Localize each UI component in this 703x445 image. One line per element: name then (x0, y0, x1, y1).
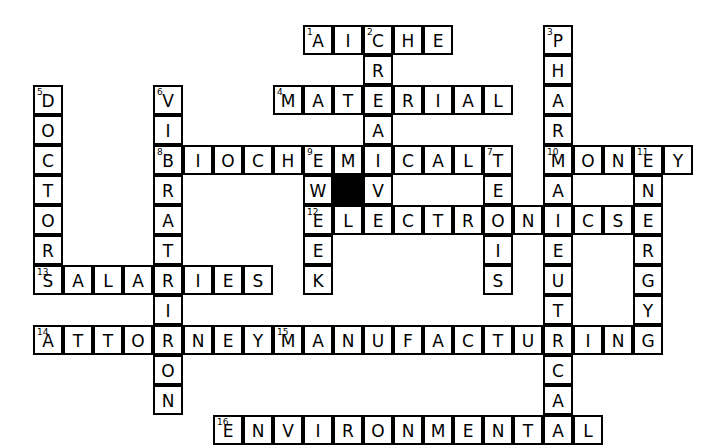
crossword-cell[interactable]: 2C (363, 25, 393, 55)
crossword-cell[interactable]: U (543, 265, 573, 295)
crossword-cell[interactable]: L (93, 265, 123, 295)
crossword-cell[interactable]: E (363, 205, 393, 235)
crossword-cell[interactable]: A (453, 85, 483, 115)
crossword-cell[interactable]: I (183, 145, 213, 175)
crossword-cell[interactable]: T (543, 295, 573, 325)
crossword-cell[interactable]: I (363, 145, 393, 175)
crossword-cell[interactable]: C (543, 355, 573, 385)
crossword-cell[interactable]: T (333, 85, 363, 115)
crossword-cell[interactable]: A (123, 265, 153, 295)
crossword-cell[interactable]: I (153, 115, 183, 145)
crossword-cell[interactable]: E (483, 175, 513, 205)
crossword-cell[interactable]: O (153, 355, 183, 385)
crossword-cell[interactable]: T (63, 325, 93, 355)
crossword-cell[interactable]: T (153, 235, 183, 265)
crossword-cell[interactable]: N (633, 175, 663, 205)
crossword-cell[interactable]: S (243, 265, 273, 295)
crossword-cell[interactable]: N (183, 325, 213, 355)
crossword-cell[interactable]: T (423, 205, 453, 235)
crossword-cell[interactable]: A (543, 175, 573, 205)
crossword-cell[interactable]: L (453, 145, 483, 175)
crossword-cell[interactable]: S (483, 265, 513, 295)
crossword-cell[interactable]: T (513, 415, 543, 445)
crossword-cell[interactable]: O (213, 145, 243, 175)
crossword-cell[interactable]: I (303, 415, 333, 445)
crossword-cell[interactable]: N (513, 205, 543, 235)
crossword-cell[interactable]: H (543, 55, 573, 85)
crossword-cell[interactable]: R (333, 415, 363, 445)
crossword-cell[interactable]: K (303, 265, 333, 295)
crossword-cell[interactable]: C (243, 145, 273, 175)
crossword-cell[interactable]: 12E (303, 205, 333, 235)
crossword-cell[interactable]: U (363, 325, 393, 355)
crossword-cell[interactable]: V (363, 175, 393, 205)
crossword-cell[interactable]: S (603, 205, 633, 235)
crossword-cell[interactable]: C (393, 145, 423, 175)
crossword-cell[interactable]: R (153, 265, 183, 295)
crossword-cell[interactable]: C (453, 325, 483, 355)
crossword-cell[interactable]: I (543, 205, 573, 235)
crossword-cell[interactable]: 5D (33, 85, 63, 115)
crossword-cell[interactable]: W (303, 175, 333, 205)
crossword-cell[interactable]: 4M (273, 85, 303, 115)
crossword-cell[interactable]: 16E (213, 415, 243, 445)
crossword-cell[interactable]: A (303, 325, 333, 355)
crossword-cell[interactable]: R (153, 325, 183, 355)
crossword-cell[interactable]: 10M (543, 145, 573, 175)
crossword-cell[interactable]: 7T (483, 145, 513, 175)
crossword-cell[interactable]: A (543, 385, 573, 415)
crossword-cell[interactable]: E (633, 205, 663, 235)
crossword-cell[interactable]: A (63, 265, 93, 295)
crossword-cell[interactable]: Y (633, 295, 663, 325)
crossword-cell[interactable]: T (33, 175, 63, 205)
crossword-cell[interactable]: E (213, 325, 243, 355)
crossword-cell[interactable]: U (513, 325, 543, 355)
crossword-cell[interactable]: E (453, 415, 483, 445)
crossword-cell[interactable]: R (363, 55, 393, 85)
crossword-cell[interactable]: 8B (153, 145, 183, 175)
crossword-cell[interactable]: O (483, 205, 513, 235)
crossword-cell[interactable]: Y (243, 325, 273, 355)
crossword-cell[interactable]: A (423, 325, 453, 355)
crossword-cell[interactable]: 13S (33, 265, 63, 295)
crossword-cell[interactable]: G (633, 325, 663, 355)
crossword-cell[interactable]: 11E (633, 145, 663, 175)
crossword-cell[interactable]: R (543, 115, 573, 145)
crossword-cell[interactable]: A (543, 415, 573, 445)
crossword-cell[interactable]: O (33, 205, 63, 235)
crossword-cell[interactable]: H (273, 145, 303, 175)
crossword-cell[interactable]: I (333, 25, 363, 55)
crossword-cell[interactable]: 14A (33, 325, 63, 355)
crossword-cell[interactable]: Y (663, 145, 693, 175)
crossword-cell[interactable]: G (633, 265, 663, 295)
crossword-cell[interactable]: T (483, 325, 513, 355)
crossword-cell[interactable]: N (393, 415, 423, 445)
crossword-cell[interactable]: R (543, 325, 573, 355)
crossword-cell[interactable]: A (153, 205, 183, 235)
crossword-cell[interactable]: O (573, 145, 603, 175)
crossword-cell[interactable]: 1A (303, 25, 333, 55)
crossword-cell[interactable]: N (243, 415, 273, 445)
crossword-cell[interactable]: I (573, 325, 603, 355)
crossword-cell[interactable]: 9E (303, 145, 333, 175)
crossword-cell[interactable]: C (573, 205, 603, 235)
crossword-cell[interactable]: V (273, 415, 303, 445)
crossword-cell[interactable]: H (393, 25, 423, 55)
crossword-cell[interactable]: F (393, 325, 423, 355)
crossword-cell[interactable]: 15M (273, 325, 303, 355)
crossword-cell[interactable]: E (363, 85, 393, 115)
crossword-cell[interactable]: I (153, 295, 183, 325)
crossword-cell[interactable]: R (393, 85, 423, 115)
crossword-cell[interactable]: E (303, 235, 333, 265)
crossword-cell[interactable]: I (483, 235, 513, 265)
crossword-cell[interactable]: R (153, 175, 183, 205)
crossword-cell[interactable]: N (603, 325, 633, 355)
crossword-cell[interactable]: A (363, 115, 393, 145)
crossword-cell[interactable]: E (543, 235, 573, 265)
crossword-cell[interactable]: M (333, 145, 363, 175)
crossword-cell[interactable]: A (303, 85, 333, 115)
crossword-cell[interactable]: N (153, 385, 183, 415)
crossword-cell[interactable]: O (363, 415, 393, 445)
crossword-cell[interactable]: R (33, 235, 63, 265)
crossword-cell[interactable]: R (453, 205, 483, 235)
